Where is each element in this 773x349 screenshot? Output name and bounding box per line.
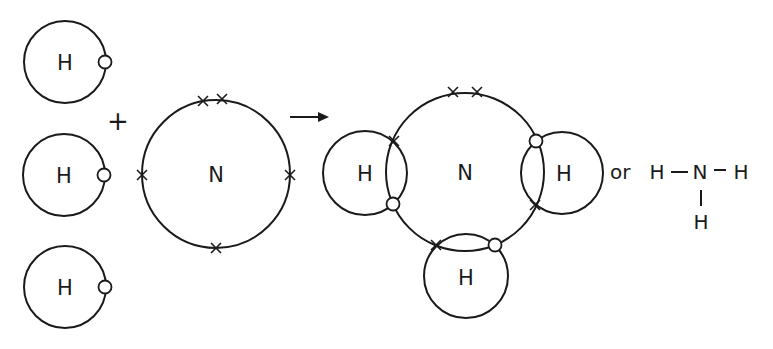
ammonia-dot-cross-diagram: H H H + N N H H: [0, 0, 773, 349]
or-label: or: [610, 160, 631, 184]
hydrogen-label: H: [57, 276, 73, 300]
nitrogen-label: N: [457, 161, 473, 185]
electron-circle-icon: [99, 281, 112, 294]
electron-circle-icon: [99, 56, 112, 69]
hydrogen-label: H: [57, 51, 73, 75]
hydrogen-label: H: [56, 164, 72, 188]
hydrogen-label: H: [556, 162, 572, 186]
reactant-hydrogen-2: H: [23, 134, 111, 216]
hydrogen-label: H: [458, 266, 474, 290]
atom-h-right: H: [733, 160, 748, 184]
ammonia-molecule: N H H H: [323, 87, 603, 318]
electron-cross-icon: [217, 94, 227, 104]
hydrogen-label: H: [357, 162, 373, 186]
atom-h-left: H: [649, 160, 664, 184]
electron-circle-icon: [98, 169, 111, 182]
atom-h-bottom: H: [693, 210, 708, 234]
reactant-hydrogen-1: H: [24, 21, 112, 103]
electron-circle-icon: [530, 135, 543, 148]
structural-formula: H N H H: [649, 160, 748, 234]
electron-cross-icon: [448, 87, 458, 97]
reaction-arrow-icon: [290, 112, 329, 122]
reactant-nitrogen: N: [137, 94, 295, 253]
electron-circle-icon: [489, 239, 502, 252]
electron-circle-icon: [387, 198, 400, 211]
nitrogen-label: N: [208, 163, 224, 187]
reactant-hydrogen-3: H: [24, 246, 112, 328]
atom-n: N: [693, 160, 708, 184]
plus-sign: +: [107, 106, 129, 136]
electron-cross-icon: [472, 87, 482, 97]
